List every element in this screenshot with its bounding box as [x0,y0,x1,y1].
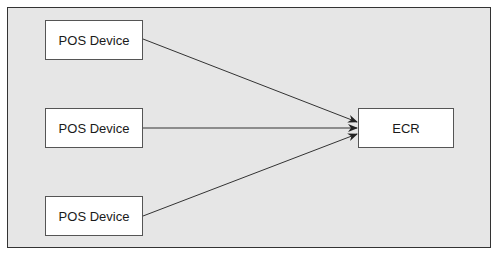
edge-pos1-ecr [143,39,357,122]
node-label: POS Device [59,33,130,48]
ecr-node: ECR [358,108,454,148]
edge-pos3-ecr [143,134,357,216]
node-label: POS Device [59,121,130,136]
pos-device-node-1: POS Device [45,20,143,60]
node-label: ECR [392,121,419,136]
pos-device-node-2: POS Device [45,108,143,148]
node-label: POS Device [59,209,130,224]
pos-device-node-3: POS Device [45,196,143,236]
